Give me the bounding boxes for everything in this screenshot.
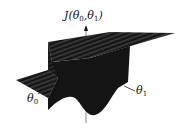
z-axis-arrow-icon [84,25,88,31]
theta1-label: θ1 [136,84,147,98]
z-axis-label: J(θ0,θ1) [64,9,103,23]
theta1-pointer [124,86,135,91]
theta0-label: θ0 [27,92,38,106]
